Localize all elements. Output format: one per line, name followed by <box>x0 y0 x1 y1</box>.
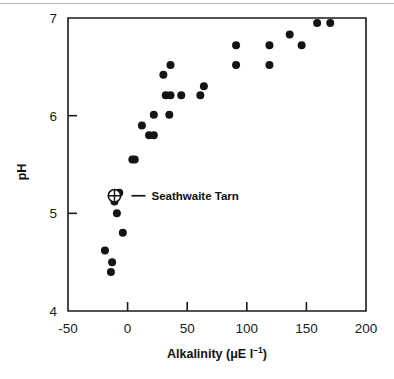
data-point <box>131 156 139 164</box>
data-point <box>119 229 127 237</box>
x-tick-label: 150 <box>295 321 318 336</box>
data-point <box>167 61 175 69</box>
annotation-label-seathwaite-tarn: Seathwaite Tarn <box>151 190 238 202</box>
data-point <box>326 19 334 27</box>
data-point <box>313 19 321 27</box>
chart-figure: 4567 -50050100150200 Seathwaite Tarn pH … <box>0 0 394 379</box>
data-point <box>150 131 158 139</box>
x-tick-label: 50 <box>180 321 195 336</box>
y-tick-label: 5 <box>49 206 57 221</box>
x-axis-title-superscript: −1 <box>253 345 263 355</box>
data-point <box>107 268 115 276</box>
y-tick-label: 4 <box>49 304 57 319</box>
scatter-plot-canvas: 4567 -50050100150200 Seathwaite Tarn pH … <box>0 0 394 379</box>
data-point <box>150 111 158 119</box>
y-axis-title: pH <box>15 164 29 181</box>
data-point <box>138 121 146 129</box>
x-axis-title-tail: ) <box>263 347 267 361</box>
x-tick-label: 100 <box>236 321 259 336</box>
data-point <box>165 111 173 119</box>
data-point <box>113 209 121 217</box>
x-axis-title: Alkalinity (μE l−1) <box>167 345 267 361</box>
data-point <box>200 82 208 90</box>
y-tick-label: 6 <box>49 109 57 124</box>
annotation-layer: Seathwaite Tarn <box>108 190 239 202</box>
y-axis-ticks: 4567 <box>49 11 77 319</box>
x-tick-label: -50 <box>58 321 78 336</box>
data-point <box>232 41 240 49</box>
data-point <box>108 258 116 266</box>
data-point <box>177 91 185 99</box>
data-point <box>265 61 273 69</box>
data-point <box>298 41 306 49</box>
x-axis-title-main: Alkalinity (μE l <box>167 347 253 361</box>
data-point <box>101 246 109 254</box>
data-point <box>159 71 167 79</box>
data-point <box>265 41 273 49</box>
x-tick-label: 200 <box>355 321 378 336</box>
y-tick-label: 7 <box>49 11 57 26</box>
data-points-layer <box>101 19 334 276</box>
data-point <box>286 31 294 39</box>
data-point <box>167 91 175 99</box>
x-axis-ticks: -50050100150200 <box>58 302 377 336</box>
data-point <box>196 91 204 99</box>
x-tick-label: 0 <box>124 321 132 336</box>
top-divider-rule <box>0 3 394 4</box>
data-point <box>232 61 240 69</box>
plot-frame <box>68 18 366 311</box>
